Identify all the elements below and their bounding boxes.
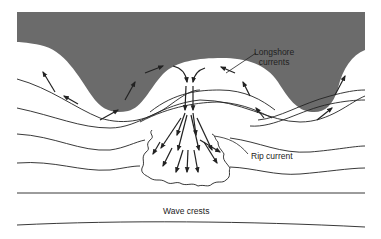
longshore-label-line2: currents — [254, 58, 294, 68]
arrow-left-lower — [64, 96, 78, 104]
land-mass — [17, 12, 365, 112]
arrow-bay-left-1 — [100, 110, 118, 120]
rip-current-zone — [142, 130, 230, 186]
wave-crests-label: Wave crests — [163, 207, 209, 217]
longshore-currents-label: Longshore currents — [254, 48, 294, 68]
wave-crest-6 — [17, 222, 365, 227]
arrow-left-up — [43, 72, 55, 92]
rip-current-label: Rip current — [251, 152, 293, 162]
arrow-top-left — [173, 66, 187, 82]
rip-feeder-arrows — [185, 86, 193, 110]
wave-crest-4 — [17, 163, 140, 171]
rip-current-arrows — [153, 113, 220, 172]
wave-crest-4b — [230, 167, 365, 174]
arrow-top-right — [193, 68, 205, 82]
wave-crest-3 — [17, 134, 145, 150]
arrow-bay-right-3 — [256, 108, 264, 118]
rip-current-diagram — [0, 0, 381, 239]
wave-crests — [17, 79, 365, 227]
